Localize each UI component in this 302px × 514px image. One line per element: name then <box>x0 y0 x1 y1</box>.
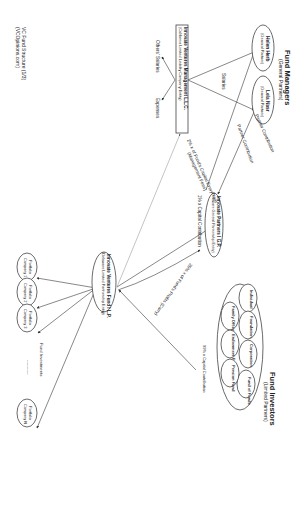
investor-corporation: Corporation <box>249 344 254 367</box>
fund-investors-subtitle: (Limited Partners) <box>263 382 269 422</box>
salary-arrow-lela <box>188 80 254 110</box>
investment-arrow-2 <box>37 288 96 308</box>
salary-arrow-helen <box>188 52 254 80</box>
salaries-label: Salaries <box>221 73 226 90</box>
general-partner-name: Innovate Partners I G.P. <box>216 196 221 247</box>
lp-commit-flow: 99% x Capital Contribution <box>202 345 207 392</box>
fund: Innovate Ventures Fund I L.P. (Delaware … <box>92 252 116 318</box>
vc-fund-structure-diagram: VC Fund Structure (1/3) (VCOpinions.com)… <box>0 0 302 514</box>
management-company: Innovate Ventures Management L.L.C. (Cal… <box>176 25 188 133</box>
investor-foundation: Foundation <box>249 316 254 338</box>
investor-individual: Individual <box>249 290 254 309</box>
portfolio-company-n-line2: Company N <box>23 404 27 424</box>
others-salaries-arrow <box>162 57 175 80</box>
gp-commit-flow: 1% x Capital Contribution <box>197 195 202 247</box>
portfolio-company-3-line1: Portfolio <box>28 311 32 325</box>
manager-lela-role: (General Partner) <box>260 86 265 118</box>
expenses: Expenses <box>155 98 160 119</box>
fund-managers-subtitle: (General Partners) <box>278 59 284 101</box>
investor-pension-fund: Pension Fund <box>231 365 236 392</box>
partner-contribution-label-left: Partner Contribution <box>236 124 255 165</box>
fund-investors: Fund Investors (Limited Partners) Indivi… <box>217 284 277 426</box>
investor-fund-of-funds: Fund of Funds <box>247 377 252 406</box>
investment-arrow-1 <box>37 278 96 288</box>
lp-capital-arrow <box>119 290 196 370</box>
portfolio-company-n: Portfolio Company N <box>17 399 37 427</box>
expenses-label: Expenses <box>155 98 160 119</box>
portfolio-company-2-line2: Company 2 <box>23 283 27 302</box>
fund-name: Innovate Ventures Fund I L.P. <box>106 254 111 318</box>
fund-investments-label: Fund Investments <box>39 343 44 376</box>
management-company-type: (California Limited Liability Company En… <box>178 27 182 101</box>
fund-investors-heading: Fund Investors (Limited Partners) <box>263 372 277 426</box>
manager-helen: Helen Herb (General Partner) <box>252 25 274 71</box>
expenses-arrow <box>162 80 175 100</box>
management-fee-arrow <box>117 134 180 287</box>
partner-contribution-text-1: Partner Contribution <box>236 124 255 165</box>
portfolio-company-2-line1: Portfolio <box>28 285 32 299</box>
management-company-name: Innovate Ventures Management L.L.C. <box>183 27 188 110</box>
title-line-2: (VCOpinions.com) <box>15 27 21 68</box>
portfolio-ellipsis: ----------- <box>26 360 31 375</box>
fund-type: (Delaware Limited Partnership Entity) <box>101 252 105 316</box>
portfolio-company-3: Portfolio Company 3 <box>17 304 37 332</box>
portfolio-company-1-line1: Portfolio <box>28 260 32 274</box>
others-salaries: Others' Salaries <box>155 40 160 73</box>
lp-commit-label: 99% x Capital Contribution <box>202 345 207 392</box>
salaries-flow: Salaries <box>221 73 226 90</box>
partner-contribution-arrow-helen <box>206 52 254 190</box>
portfolio-company-n-line1: Portfolio <box>28 406 32 420</box>
portfolio-company-1-line2: Company 1 <box>23 258 27 277</box>
diagram-title: VC Fund Structure (1/3) (VCOpinions.com) <box>15 27 27 80</box>
manager-helen-role: (General Partner) <box>260 33 265 65</box>
others-salaries-label: Others' Salaries <box>155 40 160 73</box>
portfolio-company-1: Portfolio Company 1 <box>17 253 37 281</box>
investment-arrow-3 <box>38 288 96 333</box>
gp-capital-arrow <box>117 230 207 287</box>
portfolio-company-3-line2: Company 3 <box>23 309 27 328</box>
gp-commit-label: 1% x Capital Contribution <box>197 195 202 247</box>
carry-label: 20% x of Fund's Profits (Carry) <box>153 262 193 317</box>
investment-arrow-n <box>37 288 96 428</box>
portfolio-company-2: Portfolio Company 2 <box>17 278 37 306</box>
investor-family-office: Family Office <box>231 306 236 332</box>
carry-flow: 20% x of Fund's Profits (Carry) <box>153 262 193 317</box>
fund-managers-heading: Fund Managers (General Partners) <box>278 50 292 105</box>
